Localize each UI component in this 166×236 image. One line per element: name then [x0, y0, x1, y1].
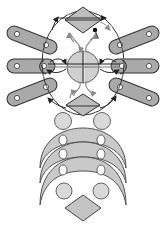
bottom-diamond	[65, 195, 101, 221]
right-pill-middle	[118, 63, 152, 68]
upper-circle-left	[55, 113, 72, 130]
left-pill-middle	[14, 63, 48, 68]
crescents	[40, 128, 126, 205]
lower-circle-right	[93, 183, 109, 199]
right-pills	[116, 31, 152, 100]
upper-circle-right	[94, 113, 111, 130]
left-pill-bottom	[14, 84, 50, 100]
diagram-canvas	[0, 0, 166, 236]
left-pills	[14, 31, 50, 100]
lower-circle-left	[56, 183, 72, 199]
top-diamond	[58, 7, 106, 33]
diagram-svg	[0, 0, 166, 236]
right-pill-bottom	[116, 84, 152, 100]
